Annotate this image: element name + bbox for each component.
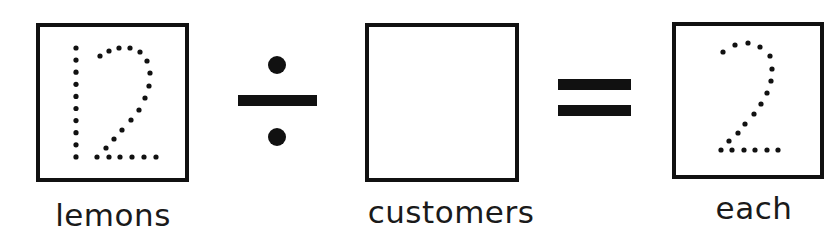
trace-dot [757, 44, 762, 49]
trace-dot [775, 147, 780, 152]
trace-dot [129, 154, 134, 159]
quotient-label: each [654, 190, 824, 226]
trace-dot [117, 154, 122, 159]
trace-dot [127, 45, 132, 50]
trace-dot [745, 40, 750, 45]
trace-dot [767, 53, 772, 58]
trace-dot [764, 147, 769, 152]
trace-dot [146, 83, 151, 88]
trace-dot [73, 94, 78, 99]
trace-dot [729, 147, 734, 152]
dotted-number-12 [73, 45, 158, 159]
trace-dot [73, 130, 78, 135]
trace-dot [758, 101, 763, 106]
dotted-number-2 [718, 40, 780, 152]
trace-dot [116, 45, 121, 50]
trace-dot [144, 58, 149, 63]
trace-dot [752, 147, 757, 152]
trace-dot [73, 70, 78, 75]
equals-icon [558, 79, 631, 116]
trace-dot [751, 111, 756, 116]
trace-dot [718, 147, 723, 152]
trace-dot [732, 42, 737, 47]
trace-dot [111, 136, 116, 141]
trace-dot [73, 82, 78, 87]
trace-dot [720, 49, 725, 54]
trace-dot [128, 117, 133, 122]
trace-dot [764, 90, 769, 95]
trace-dot [137, 49, 142, 54]
trace-dot [94, 154, 99, 159]
trace-dot [97, 53, 102, 58]
divide-icon [238, 56, 317, 146]
trace-dot [106, 48, 111, 53]
trace-dot [73, 142, 78, 147]
trace-dot [741, 147, 746, 152]
trace-dot [106, 154, 111, 159]
trace-dot [141, 154, 146, 159]
divisor-label: customers [351, 194, 551, 230]
trace-dot [742, 121, 747, 126]
trace-dot [726, 138, 731, 143]
dividend-label: lemons [13, 197, 213, 233]
trace-dot [73, 118, 78, 123]
trace-dot [119, 127, 124, 132]
trace-dot [147, 70, 152, 75]
trace-dot [73, 45, 78, 50]
trace-dot [73, 106, 78, 111]
trace-dot [73, 58, 78, 63]
trace-dot [769, 66, 774, 71]
trace-dot [103, 145, 108, 150]
trace-dot [768, 78, 773, 83]
trace-dot [142, 95, 147, 100]
trace-dot [73, 154, 78, 159]
trace-dot [735, 130, 740, 135]
trace-dot [153, 154, 158, 159]
trace-dot [136, 107, 141, 112]
